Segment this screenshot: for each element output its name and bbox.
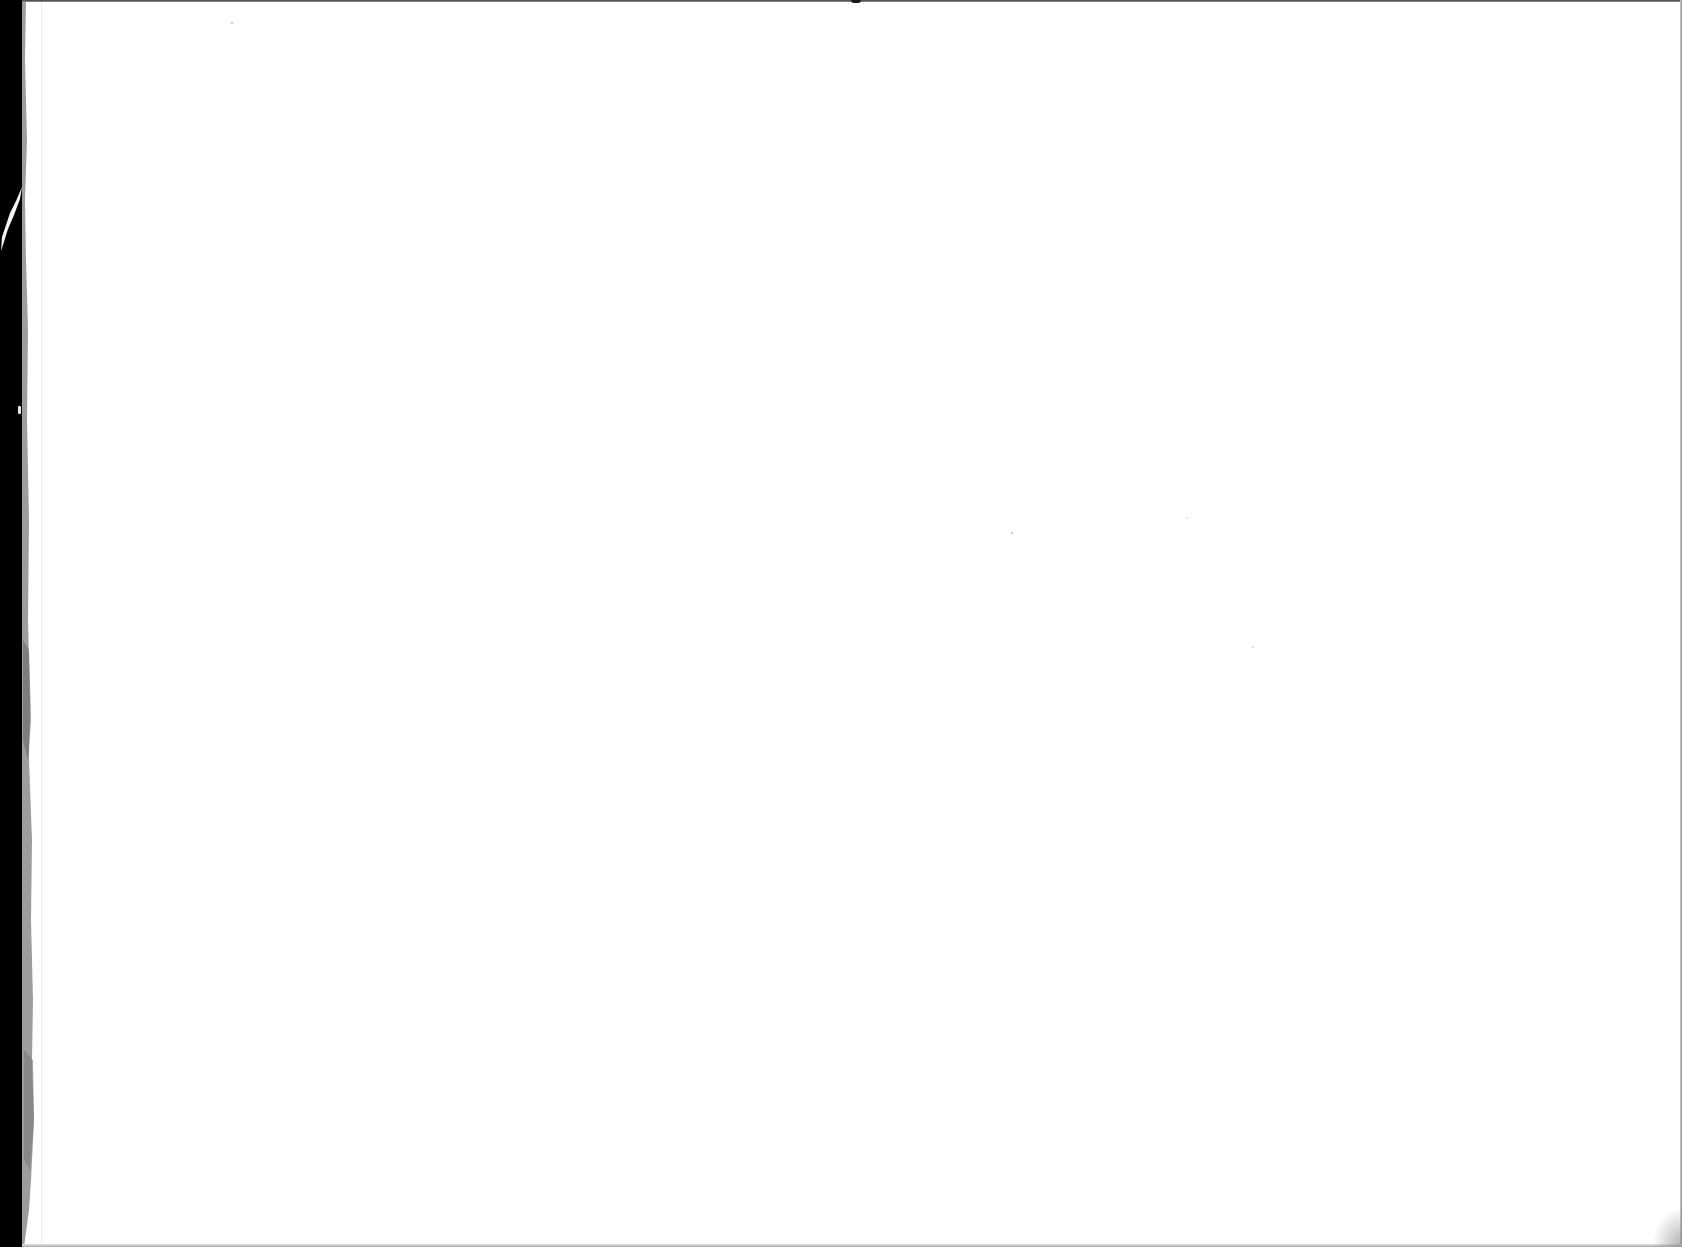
torn-flake [0, 185, 24, 255]
dust-speck [1252, 646, 1254, 648]
dust-speck [1186, 517, 1188, 519]
faint-scan-line [41, 0, 42, 1247]
corner-shadow [1652, 1207, 1682, 1247]
dust-speck [231, 22, 233, 24]
side-speck [18, 406, 21, 414]
scanned-page [0, 0, 1682, 1247]
top-edge-blob [851, 0, 861, 3]
dust-speck [1011, 532, 1013, 534]
